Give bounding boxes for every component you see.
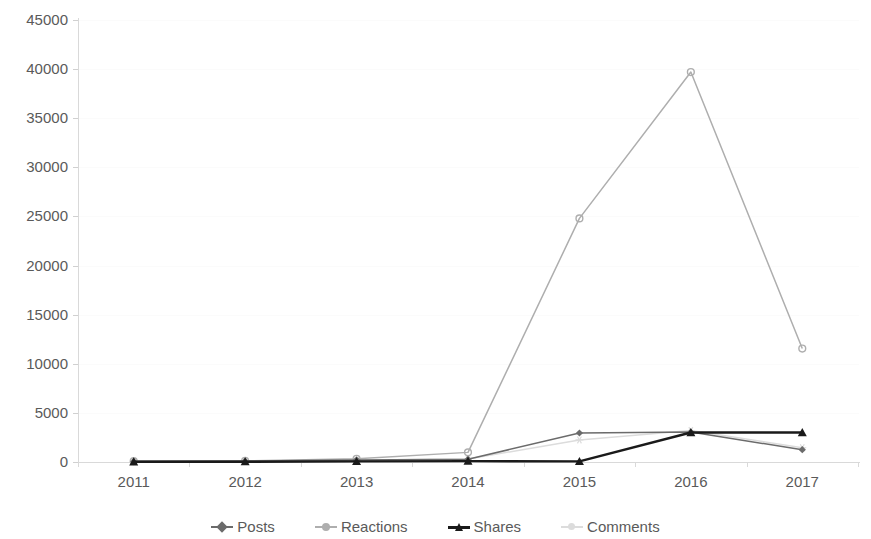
legend-label: Shares <box>474 519 522 535</box>
data-point-marker <box>576 429 583 436</box>
legend-label: Comments <box>587 519 660 535</box>
legend-item-comments[interactable]: Comments <box>561 519 660 535</box>
legend-label: Posts <box>237 519 275 535</box>
line-chart: 0500010000150002000025000300003500040000… <box>0 0 871 539</box>
legend-swatch-icon <box>211 521 233 533</box>
legend-swatch-icon <box>315 521 337 533</box>
legend-item-shares[interactable]: Shares <box>448 519 522 535</box>
legend-swatch-icon <box>448 521 470 533</box>
legend-item-posts[interactable]: Posts <box>211 519 275 535</box>
data-point-marker <box>575 436 583 443</box>
legend-swatch-icon <box>561 521 583 533</box>
series-line <box>134 72 803 461</box>
chart-legend: PostsReactionsSharesComments <box>0 514 871 539</box>
series-reactions <box>130 69 805 465</box>
data-series-layer <box>0 0 871 539</box>
series-shares <box>129 428 807 465</box>
legend-item-reactions[interactable]: Reactions <box>315 519 408 535</box>
legend-label: Reactions <box>341 519 408 535</box>
